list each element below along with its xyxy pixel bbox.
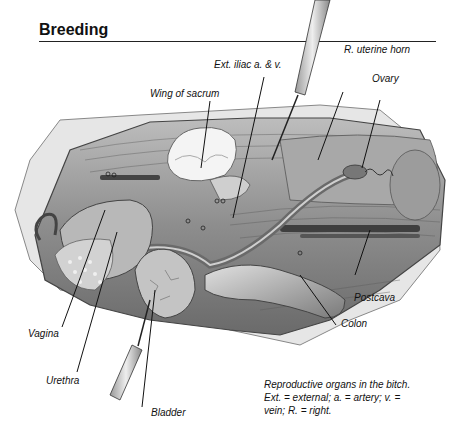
label-ovary: Ovary (372, 73, 399, 84)
postcava-vessel (280, 225, 420, 232)
label-vagina: Vagina (28, 328, 59, 339)
caption-line-3: vein; R. = right. (264, 404, 444, 417)
label-bladder: Bladder (151, 407, 185, 418)
caption-line-1: Reproductive organs in the bitch. (264, 378, 444, 391)
label-urethra: Urethra (46, 375, 79, 386)
label-wing-of-sacrum: Wing of sacrum (150, 88, 219, 99)
label-ext-iliac: Ext. iliac a. & v. (214, 59, 282, 70)
label-postcava: Postcava (354, 292, 395, 303)
label-r-uterine-horn: R. uterine horn (344, 44, 410, 55)
label-colon: Colon (341, 318, 367, 329)
caption-line-2: Ext. = external; a. = artery; v. = (264, 391, 444, 404)
figure-caption: Reproductive organs in the bitch. Ext. =… (264, 378, 444, 417)
ovary (343, 165, 367, 179)
